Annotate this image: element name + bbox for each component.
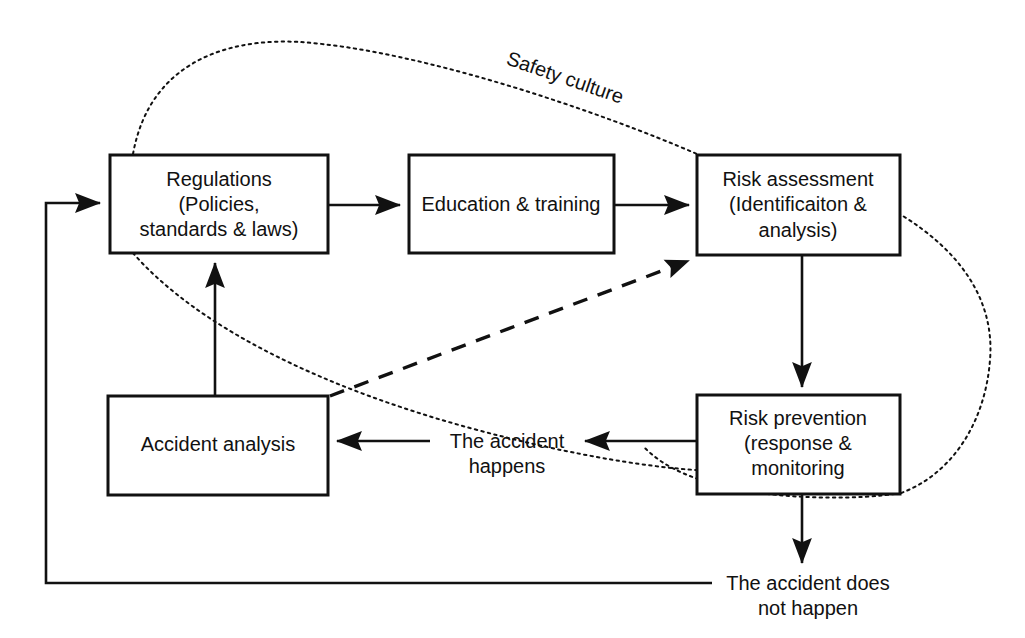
node-accident-analysis-line-1: Accident analysis [141, 433, 296, 455]
node-regulations[interactable]: Regulations (Policies, standards & laws) [110, 155, 328, 253]
label-no-accident-line-2: not happen [758, 597, 858, 619]
node-regulations-line-2: (Policies, [178, 193, 259, 215]
node-regulations-line-1: Regulations [166, 168, 272, 190]
solid-edge-group [46, 203, 802, 583]
node-risk-assessment-line-2: (Identificaiton & [729, 193, 868, 215]
diagram-canvas: Regulations (Policies, standards & laws)… [0, 0, 1025, 638]
node-regulations-line-3: standards & laws) [140, 218, 299, 240]
node-risk-assessment-line-3: analysis) [759, 219, 838, 241]
node-risk-prevention[interactable]: Risk prevention (response & monitoring [697, 395, 900, 494]
dashed-edge-group [330, 261, 688, 396]
flow-diagram: Regulations (Policies, standards & laws)… [0, 0, 1025, 638]
label-accident-happens-line-2: happens [469, 455, 546, 477]
node-risk-prevention-line-1: Risk prevention [729, 407, 867, 429]
label-safety-culture-text: Safety culture [504, 47, 627, 108]
node-accident-analysis[interactable]: Accident analysis [108, 396, 328, 495]
node-risk-prevention-line-2: (response & [744, 432, 852, 454]
node-risk-prevention-line-3: monitoring [751, 457, 844, 479]
edge-label-group: Safety culture The accident happens The … [450, 47, 890, 619]
node-education[interactable]: Education & training [409, 155, 614, 253]
assessment-prevention-right-arc [898, 213, 990, 493]
label-safety-culture: Safety culture [504, 47, 627, 108]
node-education-line-1: Education & training [421, 193, 600, 215]
label-no-accident-line-1: The accident does [726, 572, 889, 594]
node-risk-assessment[interactable]: Risk assessment (Identificaiton & analys… [697, 155, 900, 255]
node-risk-assessment-line-1: Risk assessment [722, 168, 874, 190]
label-accident-happens-line-1: The accident [450, 430, 565, 452]
edge-analysis-to-assessment-dashed [330, 261, 688, 396]
edge-feedback-loop-to-regulations [46, 203, 712, 583]
